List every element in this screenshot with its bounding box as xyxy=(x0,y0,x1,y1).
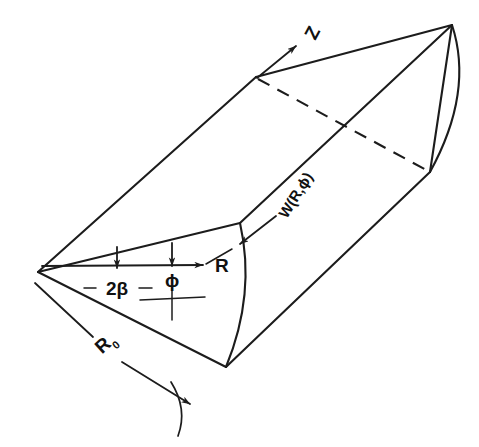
outer-radius-label-group: R 0 xyxy=(91,329,123,361)
radius-label: R xyxy=(215,255,229,276)
outer-radius-leader-lower xyxy=(122,362,190,404)
edge-apex-to-near-arc-bottom xyxy=(38,272,226,367)
phi-label: ϕ xyxy=(165,270,179,291)
edge-apex-to-near-top xyxy=(38,77,256,272)
arc-far-face-outer xyxy=(430,25,459,172)
z-axis-arrow xyxy=(257,46,296,78)
sector-duct-figure: Z W(R,ϕ) R ϕ 2β R 0 xyxy=(0,0,479,447)
z-axis-label: Z xyxy=(300,23,324,43)
radius-arrow xyxy=(42,265,203,266)
wedge-angle-label: 2β xyxy=(106,278,128,299)
outer-radius-leader-upper xyxy=(35,283,93,337)
hidden-edge-back xyxy=(258,79,430,172)
edge-far-top-to-near-arc-top xyxy=(240,25,452,223)
outer-radius-target-arc xyxy=(171,382,182,436)
edge-top-ridge xyxy=(256,25,452,77)
velocity-profile-label: W(R,ϕ) xyxy=(275,169,316,221)
velocity-profile-arrow xyxy=(240,216,276,244)
edge-near-arc-bottom-to-far xyxy=(226,172,430,367)
z-axis-label-group: Z xyxy=(300,23,324,43)
velocity-profile-label-group: W(R,ϕ) xyxy=(275,169,316,221)
arc-near-face-outer xyxy=(226,223,246,367)
diagram-canvas: Z W(R,ϕ) R ϕ 2β R 0 xyxy=(0,0,479,447)
